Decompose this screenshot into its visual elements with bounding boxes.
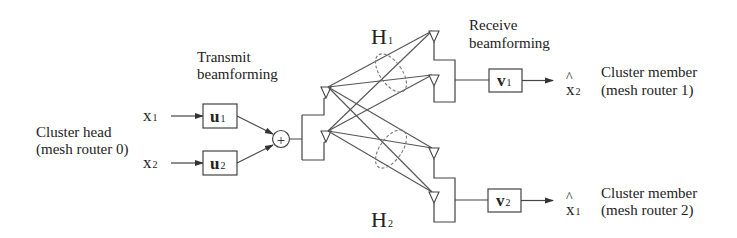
output-xhat1: ^ x1 <box>566 190 581 219</box>
svg-text:x1: x1 <box>143 106 158 125</box>
weight-block-u1: u1 <box>203 104 237 128</box>
channel-paths <box>328 31 432 192</box>
input-x2: x2 <box>143 153 158 172</box>
rx-antenna-1a-icon <box>429 31 439 42</box>
tx-antenna-2-icon <box>321 131 331 142</box>
svg-text:beamforming: beamforming <box>197 66 278 82</box>
svg-text:x1: x1 <box>566 200 581 219</box>
weight-block-u2: u2 <box>203 151 237 175</box>
svg-text:Receive: Receive <box>469 17 518 33</box>
weight-block-v1: v1 <box>489 69 522 92</box>
rx-antenna-2b-icon <box>429 192 439 203</box>
channel-h1-label: H1 <box>371 24 393 49</box>
weight-block-v2: v2 <box>488 189 521 212</box>
svg-text:(mesh router 1): (mesh router 1) <box>601 82 693 99</box>
beamforming-diagram: Cluster head (mesh router 0) x1 x2 Trans… <box>0 0 737 238</box>
adder-circle: + <box>273 131 290 148</box>
transmit-beamforming-label: Transmit beamforming <box>197 49 278 82</box>
cluster-head-label: Cluster head (mesh router 0) <box>36 124 128 158</box>
rx-antenna-1b-icon <box>429 75 439 86</box>
cluster-member-1-label: Cluster member (mesh router 1) <box>601 64 697 99</box>
svg-text:(mesh router 0): (mesh router 0) <box>36 141 128 158</box>
svg-text:+: + <box>277 132 285 148</box>
arrow-u2-to-adder <box>237 145 273 163</box>
arrow-u1-to-adder <box>237 116 273 134</box>
svg-text:beamforming: beamforming <box>469 35 550 51</box>
rx-antenna-2a-icon <box>429 148 439 159</box>
svg-text:x2: x2 <box>566 80 581 99</box>
receive-antenna-array-2 <box>429 148 488 222</box>
svg-text:H2: H2 <box>371 207 393 232</box>
svg-text:Cluster member: Cluster member <box>601 64 697 80</box>
svg-text:Cluster member: Cluster member <box>601 185 697 201</box>
svg-text:H1: H1 <box>371 24 393 49</box>
transmit-antenna-array <box>290 87 332 160</box>
svg-text:Cluster head: Cluster head <box>36 124 112 140</box>
output-xhat2: ^ x2 <box>566 70 581 99</box>
channel-h2-label: H2 <box>371 207 393 232</box>
svg-text:x2: x2 <box>143 153 158 172</box>
input-x1: x1 <box>143 106 158 125</box>
svg-text:(mesh router 2): (mesh router 2) <box>601 202 693 219</box>
receive-beamforming-label: Receive beamforming <box>469 17 550 51</box>
svg-text:Transmit: Transmit <box>197 49 251 65</box>
cluster-member-2-label: Cluster member (mesh router 2) <box>601 185 697 219</box>
